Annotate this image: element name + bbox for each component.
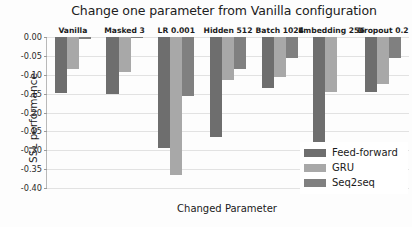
bar-feed-forward [313,37,325,145]
bar-gru [325,37,337,92]
bar-seq2seq [286,37,298,58]
bar-group-batch-1024: Batch 1024 [262,37,298,188]
y-tick-mark [44,169,47,170]
legend-label: Seq2seq [332,177,375,188]
bar-gru [377,37,389,84]
bar-feed-forward [158,37,170,148]
y-tick-mark [44,150,47,151]
bar-gru [67,37,79,69]
bar-group-masked-3: Masked 3 [106,37,142,188]
y-tick-mark [44,113,47,114]
group-label: Embedding 256 [298,26,365,35]
group-label: Dropout 0.2 [358,26,409,35]
legend-item-feed-forward: Feed-forward [304,145,404,160]
group-label: Masked 3 [104,26,145,35]
y-tick-label: -0.30 [21,145,42,155]
legend-swatch [304,149,326,157]
legend-label: Feed-forward [332,147,398,158]
bar-gru [119,37,131,72]
legend-item-gru: GRU [304,160,404,175]
bar-group-hidden-512: Hidden 512 [210,37,246,188]
x-axis-label: Changed Parameter [46,203,408,214]
group-label: Vanilla [58,26,87,35]
y-tick-mark [44,37,47,38]
bar-seq2seq [234,37,246,69]
group-label: LR 0.001 [158,26,195,35]
legend-item-seq2seq: Seq2seq [304,175,404,190]
bar-seq2seq [182,37,194,96]
group-label: Hidden 512 [204,26,253,35]
bar-feed-forward [106,37,118,94]
bar-feed-forward [262,37,274,88]
y-tick-mark [44,75,47,76]
bar-group-lr-0-001: LR 0.001 [158,37,194,188]
chart-figure: Change one parameter from Vanilla config… [0,0,412,227]
y-tick-mark [44,94,47,95]
bar-seq2seq [131,37,143,38]
bar-gru [170,37,182,175]
y-tick-mark [44,131,47,132]
y-tick-label: -0.05 [21,51,42,61]
y-tick-label: -0.15 [21,89,42,99]
bar-seq2seq [79,37,91,39]
y-tick-label: 0.00 [24,32,42,42]
bar-gru [222,37,234,80]
chart-legend: Feed-forwardGRUSeq2seq [300,142,408,194]
y-tick-label: -0.10 [21,70,42,80]
group-label: Batch 1024 [256,26,304,35]
bar-feed-forward [365,37,377,92]
y-tick-label: -0.25 [21,126,42,136]
y-tick-label: -0.35 [21,164,42,174]
y-tick-label: -0.40 [21,183,42,193]
bar-gru [274,37,286,77]
legend-swatch [304,179,326,187]
legend-swatch [304,164,326,172]
legend-label: GRU [332,162,354,173]
bar-feed-forward [55,37,67,93]
chart-title: Change one parameter from Vanilla config… [40,3,408,18]
y-tick-mark [44,188,47,189]
bar-group-vanilla: Vanilla [55,37,91,188]
bar-feed-forward [210,37,222,137]
y-tick-label: -0.20 [21,108,42,118]
bar-seq2seq [389,37,401,58]
y-tick-mark [44,56,47,57]
